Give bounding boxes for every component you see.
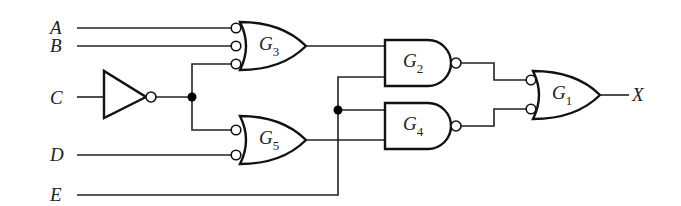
input-label-e: E xyxy=(49,184,62,205)
gate-g3: G3 xyxy=(231,22,306,70)
gate-g2: G2 xyxy=(385,40,461,86)
wire-g4-to-g1 xyxy=(461,109,526,126)
logic-circuit-diagram: A B C D E G3 G5 G2 G xyxy=(0,0,681,206)
wire-c-branch xyxy=(192,64,231,130)
inverter-bubble-icon xyxy=(146,92,156,102)
input-label-b: B xyxy=(50,35,62,56)
gate-g4: G4 xyxy=(385,103,461,149)
input-label-c: C xyxy=(50,87,63,108)
gate-g5: G5 xyxy=(231,116,306,164)
gate-g1: G1 xyxy=(526,71,600,119)
inverter-gate xyxy=(104,71,156,118)
input-label-d: D xyxy=(49,144,64,165)
wire-g2-to-g1 xyxy=(461,63,526,80)
junction-dot-e xyxy=(334,106,343,115)
output-label-x: X xyxy=(631,84,645,105)
junction-dot-c xyxy=(188,93,197,102)
